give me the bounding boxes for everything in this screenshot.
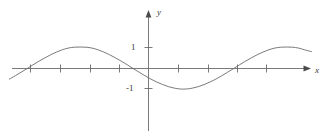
x-axis-arrowhead bbox=[304, 66, 312, 72]
y-axis-label: y bbox=[157, 8, 161, 17]
y-tick-label-negative-one: -1 bbox=[126, 84, 134, 93]
coordinate-plane-svg bbox=[0, 0, 325, 138]
y-axis-arrowhead bbox=[146, 10, 152, 18]
x-axis-label: x bbox=[315, 66, 319, 75]
y-tick-label-one: 1 bbox=[131, 43, 136, 52]
sine-curve-figure: y x 1 -1 bbox=[0, 0, 325, 138]
